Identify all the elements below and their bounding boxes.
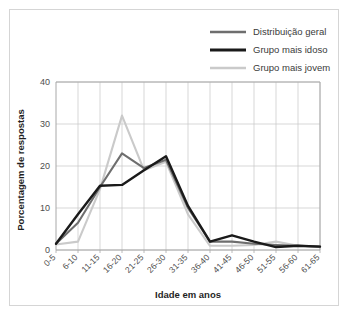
x-axis-ticks: 0-56-1011-1516-2021-2526-3031-3536-4041-…: [42, 250, 322, 275]
x-tick-label: 31-35: [167, 252, 190, 275]
x-tick-label: 26-30: [145, 252, 168, 275]
x-axis-title: Idade em anos: [155, 289, 221, 300]
legend-label: Grupo mais idoso: [253, 44, 327, 55]
chart-legend: Distribuição geralGrupo mais idosoGrupo …: [210, 26, 330, 73]
chart-gridlines: [56, 82, 320, 250]
y-axis-ticks: 010203040: [40, 77, 50, 255]
x-tick-label: 6-10: [60, 252, 79, 271]
x-tick-label: 41-45: [211, 252, 234, 275]
x-tick-label: 46-50: [233, 252, 256, 275]
x-tick-label: 21-25: [123, 252, 146, 275]
line-chart: Distribuição geralGrupo mais idosoGrupo …: [10, 10, 338, 305]
x-tick-label: 16-20: [101, 252, 124, 275]
y-tick-label: 30: [40, 119, 50, 129]
y-tick-label: 10: [40, 203, 50, 213]
y-tick-label: 20: [40, 161, 50, 171]
legend-label: Grupo mais jovem: [253, 62, 330, 73]
legend-label: Distribuição geral: [253, 26, 326, 37]
y-tick-label: 40: [40, 77, 50, 87]
x-tick-label: 11-15: [79, 252, 101, 274]
x-tick-label: 51-55: [255, 252, 278, 275]
y-axis-title: Porcentagem de respostas: [15, 109, 26, 230]
x-tick-label: 56-60: [277, 252, 300, 275]
x-tick-label: 36-40: [189, 252, 212, 275]
figure-panel: Distribuição geralGrupo mais idosoGrupo …: [9, 9, 339, 306]
x-tick-label: 61-65: [299, 252, 322, 275]
